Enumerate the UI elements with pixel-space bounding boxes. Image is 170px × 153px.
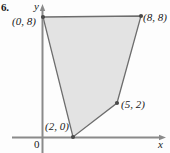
shaded-polygon (43, 16, 141, 137)
problem-number-label: 6. (1, 2, 9, 13)
math-figure: 6. (0, 8) (8, 8) (5, 2) (2, 0) y x 0 (0, 0, 170, 153)
vertex-label-8-8: (8, 8) (143, 12, 167, 23)
vertex-point-2-0 (71, 135, 75, 139)
vertex-label-0-8: (0, 8) (12, 16, 36, 27)
vertex-label-5-2: (5, 2) (121, 99, 145, 110)
y-axis-label: y (34, 1, 39, 12)
vertex-label-2-0: (2, 0) (45, 121, 69, 132)
y-axis-arrowhead-icon (40, 4, 45, 11)
origin-label: 0 (34, 139, 40, 150)
x-axis-label: x (158, 139, 163, 150)
vertex-point-5-2 (115, 101, 119, 105)
vertex-point-0-8 (41, 15, 45, 19)
